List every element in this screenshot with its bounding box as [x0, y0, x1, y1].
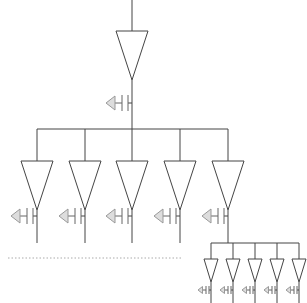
level2-buffer-icon-2	[248, 259, 262, 282]
level2-buffer-icon-3	[270, 259, 284, 282]
level2-capacitor-icon-1-ground-icon	[220, 287, 225, 294]
level1-capacitor-icon-4-ground-icon	[202, 209, 211, 223]
level1-capacitor-icon-2-ground-icon	[106, 209, 115, 223]
level2-capacitor-icon-4-ground-icon	[286, 287, 291, 294]
level2-buffer-icon-4	[292, 259, 306, 282]
level2-capacitor-icon-3-ground-icon	[264, 287, 269, 294]
level1-buffer-icon-1	[69, 161, 101, 210]
level1-capacitor-icon-0-ground-icon	[11, 209, 20, 223]
level2-capacitor-icon-0-ground-icon	[198, 287, 203, 294]
level1-buffer-icon-4	[212, 161, 244, 210]
level1-buffer-icon-0	[21, 161, 53, 210]
level1-capacitor-icon-3-ground-icon	[154, 209, 163, 223]
level1-capacitor-icon-1-ground-icon	[59, 209, 68, 223]
level1-buffer-icon-3	[164, 161, 196, 210]
root-capacitor-icon-ground-icon	[106, 96, 115, 110]
level1-buffer-icon-2	[116, 161, 148, 210]
tree-group	[8, 0, 306, 303]
root-buffer-icon	[116, 31, 148, 80]
clock-tree-diagram	[0, 0, 307, 303]
level2-buffer-icon-0	[204, 259, 218, 282]
level2-capacitor-icon-2-ground-icon	[242, 287, 247, 294]
level2-buffer-icon-1	[226, 259, 240, 282]
